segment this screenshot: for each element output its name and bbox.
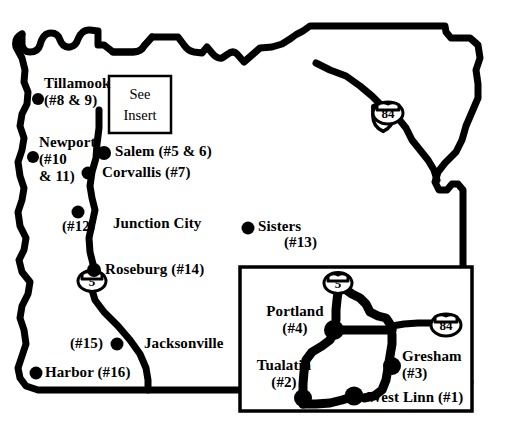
interstate-84-main-route-east: [398, 118, 437, 180]
label-gresham-sites: (#3): [402, 365, 462, 382]
city-dot-gresham: [383, 357, 401, 375]
label-newport-sites-2: & 11): [39, 168, 96, 185]
label-site15: (#15): [70, 336, 103, 352]
label-tillamook-name: Tillamook: [44, 75, 110, 92]
label-portland-name: Portland: [259, 303, 331, 320]
city-dot-tualatin: [294, 389, 312, 407]
label-portland-sites: (#4): [259, 320, 331, 337]
label-newport-name: Newport: [39, 134, 96, 151]
city-dot-site12: [72, 206, 85, 219]
label-sisters: Sisters (#13): [258, 219, 317, 251]
label-tillamook: Tillamook (#8 & 9): [44, 75, 110, 109]
label-west-linn: West Linn (#1): [367, 390, 463, 406]
label-harbor: Harbor (#16): [45, 365, 131, 381]
label-tualatin: Tualatin (#2): [251, 357, 317, 391]
label-tualatin-name: Tualatin: [251, 357, 317, 374]
city-dot-roseburg: [87, 263, 101, 277]
i5-inset-shield-label: 5: [335, 276, 342, 291]
label-tillamook-sites: (#8 & 9): [44, 92, 110, 109]
see-insert-label: See Insert: [117, 84, 163, 126]
city-dot-west-linn: [345, 387, 364, 406]
label-roseburg: Roseburg (#14): [105, 262, 204, 278]
i84-inset-shield-label: 84: [440, 318, 454, 333]
columbia-river-line: [113, 37, 152, 52]
oregon-site-map: 84 5: [0, 0, 531, 446]
label-gresham: Gresham (#3): [402, 348, 462, 382]
city-dot-site15: [111, 338, 124, 351]
label-site12: (#12): [62, 219, 95, 235]
inset-i5-north-segment: [336, 292, 338, 320]
label-salem: Salem (#5 & 6): [115, 144, 212, 160]
city-dot-sisters: [242, 222, 255, 235]
label-gresham-name: Gresham: [402, 348, 462, 365]
label-portland: Portland (#4): [259, 303, 331, 337]
city-dot-tillamook: [32, 93, 44, 105]
city-dot-harbor: [30, 367, 43, 380]
label-corvallis: Corvallis (#7): [102, 165, 190, 181]
see-insert-line1: See: [117, 84, 163, 105]
label-newport: Newport (#10 & 11): [39, 134, 96, 184]
see-insert-line2: Insert: [117, 105, 163, 126]
i84-main-shield-label: 84: [382, 106, 396, 121]
label-junction-city: Junction City: [113, 216, 201, 232]
city-dot-salem: [97, 146, 111, 160]
city-dot-newport: [27, 151, 39, 163]
inset-i84-east-segment: [392, 323, 430, 326]
label-sisters-sites: (#13): [258, 235, 317, 251]
label-tualatin-sites: (#2): [251, 374, 317, 391]
label-jacksonville: Jacksonville: [144, 336, 224, 352]
label-newport-sites-1: (#10: [39, 151, 96, 168]
interstate-84-main-route: [316, 63, 380, 104]
label-sisters-name: Sisters: [258, 219, 317, 235]
